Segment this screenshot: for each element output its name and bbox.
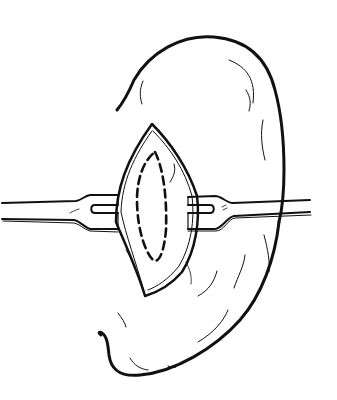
surgical-illustration <box>0 0 337 400</box>
dashed-oval <box>137 152 166 261</box>
lens-shaped-incision <box>116 124 198 296</box>
organ-outline <box>99 37 284 376</box>
illustration-canvas: Surgical incision with retractors <box>0 0 337 400</box>
left-retractor <box>2 195 118 232</box>
right-retractor <box>188 196 311 231</box>
